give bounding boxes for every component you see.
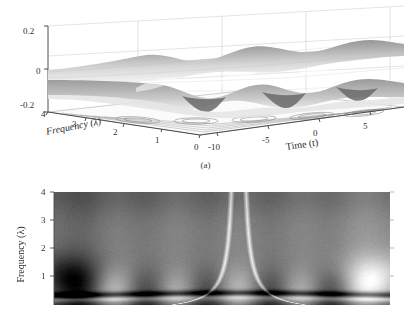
panel-b-frequency-axis-title: Frequency (λ) xyxy=(15,213,26,297)
panel-b-scalogram: 4 3 2 1 Frequency (λ) xyxy=(0,186,411,320)
z-axis xyxy=(44,26,48,112)
panel-b-frequency-tick-1: 1 xyxy=(41,272,46,281)
scalogram-axis-lines xyxy=(0,186,411,320)
panel-a-surface-plot: 0.2 0 -0.2 4 3 2 1 0 -10 -5 0 5 Frequenc… xyxy=(0,0,411,155)
panel-a-time-tick-minus10: -10 xyxy=(208,143,220,152)
z-tick-0: 0.2 xyxy=(23,27,34,36)
panel-a-frequency-tick-2: 2 xyxy=(113,128,118,137)
z-tick-2: -0.2 xyxy=(20,101,34,110)
panel-a-frequency-tick-0: 0 xyxy=(194,143,199,152)
panel-a-frequency-tick-1: 1 xyxy=(155,136,160,145)
z-tick-1: 0 xyxy=(36,67,41,76)
panel-b-frequency-tick-2: 2 xyxy=(41,244,46,253)
panel-a-time-tick-minus5: -5 xyxy=(262,136,270,145)
subcaption-a: (a) xyxy=(0,160,411,170)
panel-a-frequency-tick-4: 4 xyxy=(41,110,46,119)
panel-b-frequency-tick-4: 4 xyxy=(41,188,46,197)
panel-a-time-tick-5: 5 xyxy=(363,122,368,131)
panel-b-frequency-tick-3: 3 xyxy=(41,216,46,225)
